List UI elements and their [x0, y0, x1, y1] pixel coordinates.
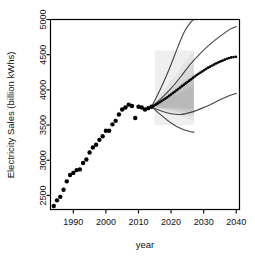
data-point-marker [52, 204, 56, 208]
data-point-marker [149, 105, 153, 109]
data-point-marker [97, 138, 101, 142]
data-point-marker [110, 122, 114, 126]
data-point-marker [117, 112, 121, 116]
data-point-marker [84, 157, 88, 161]
data-point-marker [61, 188, 65, 192]
chart-svg: 250030003500400045005000 199020002010202… [0, 0, 255, 258]
x-tick-label: 1990 [63, 217, 83, 227]
data-point-marker [130, 104, 134, 108]
x-tick-label: 2010 [128, 217, 148, 227]
forecast-marker [234, 55, 237, 58]
data-point-marker [107, 128, 111, 132]
y-tick-label: 5000 [38, 9, 48, 29]
x-tick-label: 2030 [194, 217, 214, 227]
y-tick-label: 3000 [38, 150, 48, 170]
x-axis-title: year [136, 239, 154, 250]
data-point-marker [94, 143, 98, 147]
forecast-marker [232, 56, 235, 59]
electricity-sales-chart: 250030003500400045005000 199020002010202… [0, 0, 255, 258]
x-tick-label: 2040 [226, 217, 246, 227]
forecast-marker [230, 56, 233, 59]
data-point-marker [87, 150, 91, 154]
data-point-marker [133, 116, 137, 120]
y-tick-label: 4000 [38, 80, 48, 100]
data-point-marker [100, 134, 104, 138]
data-point-marker [81, 161, 85, 165]
x-tick-label: 2020 [161, 217, 181, 227]
data-point-marker [55, 198, 59, 202]
data-point-marker [65, 179, 69, 183]
y-tick-label: 4500 [38, 45, 48, 65]
data-point-marker [113, 119, 117, 123]
y-axis-title: Electricity Sales (billion kWhs) [5, 52, 16, 179]
y-tick-label: 3500 [38, 115, 48, 135]
data-point-marker [78, 167, 82, 171]
x-tick-label: 2000 [96, 217, 116, 227]
data-point-marker [58, 195, 62, 199]
y-tick-label: 2500 [38, 185, 48, 205]
